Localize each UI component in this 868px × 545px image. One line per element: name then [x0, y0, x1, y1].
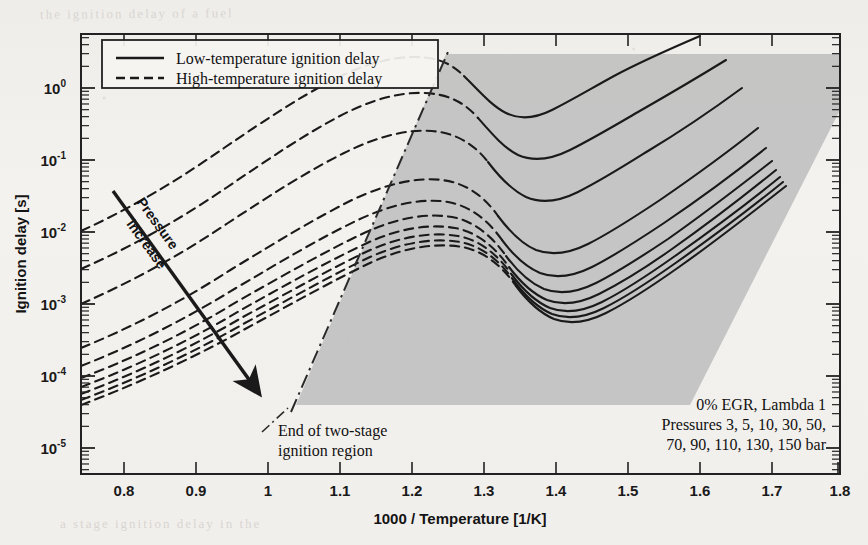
xtick-0: 0.8 [114, 482, 135, 499]
ytick-1: 10-1 [40, 150, 66, 169]
ytick-2: 10-2 [40, 222, 66, 241]
y-axis-title: Ignition delay [s] [12, 194, 29, 313]
legend-label-high-temp: High-temperature ignition delay [176, 70, 382, 88]
xtick-7: 1.5 [618, 482, 639, 499]
legend-label-low-temp: Low-temperature ignition delay [176, 50, 379, 68]
two-stage-region-shading [296, 54, 840, 405]
conditions-line3: 70, 90, 110, 130, 150 bar [666, 436, 827, 453]
xtick-1: 0.9 [186, 482, 207, 499]
chart-legend: Low-temperature ignition delay High-temp… [102, 40, 438, 88]
pressure-increase-annotation: Pressure increase [113, 191, 258, 392]
boundary-callout-line2: ignition region [278, 442, 373, 460]
y-axis-tick-labels: 100 10-1 10-2 10-3 10-4 10-5 [40, 78, 66, 457]
ignition-delay-chart: 0.8 0.9 1 1.1 1.2 1.3 1.4 1.5 1.6 1.7 1.… [0, 0, 868, 545]
boundary-callout-annotation: End of two-stage ignition region [262, 408, 387, 460]
ytick-4: 10-4 [40, 366, 66, 385]
xtick-4: 1.2 [402, 482, 423, 499]
x-axis-title: 1000 / Temperature [1/K] [373, 510, 546, 527]
ytick-5: 10-5 [40, 438, 66, 457]
x-axis-tick-labels: 0.8 0.9 1 1.1 1.2 1.3 1.4 1.5 1.6 1.7 1.… [114, 482, 851, 499]
conditions-line2: Pressures 3, 5, 10, 30, 50, [662, 416, 826, 433]
conditions-line1: 0% EGR, Lambda 1 [696, 396, 826, 413]
xtick-3: 1.1 [330, 482, 351, 499]
ytick-0: 100 [44, 78, 67, 97]
xtick-2: 1 [264, 482, 272, 499]
boundary-callout-line1: End of two-stage [278, 422, 387, 440]
ytick-3: 10-3 [40, 294, 66, 313]
xtick-6: 1.4 [546, 482, 568, 499]
xtick-5: 1.3 [474, 482, 495, 499]
xtick-9: 1.7 [762, 482, 783, 499]
xtick-10: 1.8 [830, 482, 851, 499]
xtick-8: 1.6 [690, 482, 711, 499]
